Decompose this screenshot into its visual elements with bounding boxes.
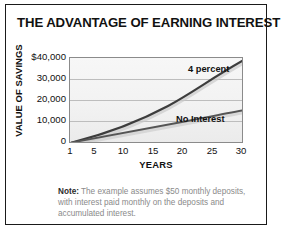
page-title: THE ADVANTAGE OF EARNING INTEREST — [17, 15, 261, 30]
x-tick-10: 10 — [111, 145, 135, 156]
plot-area: 4 percent No Interest — [69, 57, 243, 143]
note-label: Note: — [58, 187, 79, 196]
series-label-4-percent: 4 percent — [188, 64, 229, 74]
series-label-no-interest: No Interest — [176, 114, 225, 124]
chart-container: VALUE OF SAVINGS $40,000 30,000 20,000 1… — [6, 43, 266, 183]
x-tick-25: 25 — [200, 145, 224, 156]
y-tick-30000: 30,000 — [8, 72, 66, 83]
y-tick-10000: 10,000 — [8, 114, 66, 125]
x-tick-30: 30 — [229, 145, 253, 156]
x-tick-5: 5 — [82, 145, 106, 156]
note-text: The example assumes $50 monthly deposits… — [58, 187, 245, 218]
y-axis-ticks: $40,000 30,000 20,000 10,000 0 — [6, 57, 66, 143]
x-tick-15: 15 — [141, 145, 165, 156]
x-tick-20: 20 — [170, 145, 194, 156]
x-axis-label: YEARS — [69, 159, 243, 170]
chart-note: Note: The example assumes $50 monthly de… — [58, 186, 258, 220]
y-tick-20000: 20,000 — [8, 93, 66, 104]
y-tick-40000: $40,000 — [8, 51, 66, 62]
x-tick-1: 1 — [58, 145, 82, 156]
chart-figure: THE ADVANTAGE OF EARNING INTEREST VALUE … — [5, 4, 267, 225]
x-axis-ticks: 1 5 10 15 20 25 30 — [69, 145, 243, 159]
